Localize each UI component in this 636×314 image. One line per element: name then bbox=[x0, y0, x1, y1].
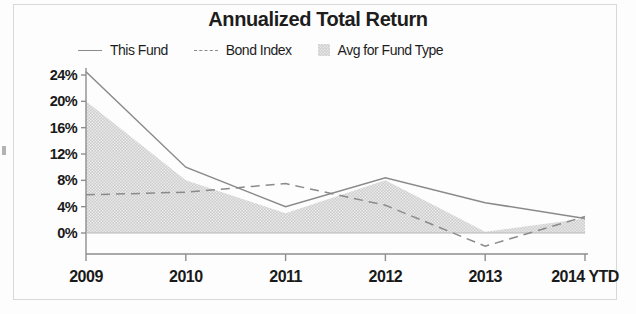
x-axis-tick-label: 2013 bbox=[468, 268, 502, 285]
y-axis-tick-label: 8% bbox=[57, 172, 77, 188]
y-axis-tick-label: 12% bbox=[50, 146, 78, 162]
y-axis-tick-label: 16% bbox=[50, 120, 78, 136]
y-axis-tick-label: 4% bbox=[57, 199, 77, 215]
x-axis-tick-label: 2010 bbox=[169, 268, 203, 285]
y-axis-tick-label: 0% bbox=[57, 225, 77, 241]
series-area-avg-for-fund-type bbox=[86, 101, 585, 233]
plot-area: 24%20%16%12%8%4%0%2009201020112012201320… bbox=[0, 0, 636, 314]
x-axis-tick-label: 2009 bbox=[69, 268, 103, 285]
chart-container: Annualized Total Return This Fund Bond I… bbox=[0, 0, 636, 314]
x-axis-tick-label: 2012 bbox=[369, 268, 403, 285]
y-axis-tick-label: 20% bbox=[50, 93, 78, 109]
x-axis-tick-label: 2014 YTD bbox=[551, 268, 619, 285]
x-axis-tick-label: 2011 bbox=[269, 268, 302, 285]
y-axis-tick-label: 24% bbox=[50, 67, 78, 83]
